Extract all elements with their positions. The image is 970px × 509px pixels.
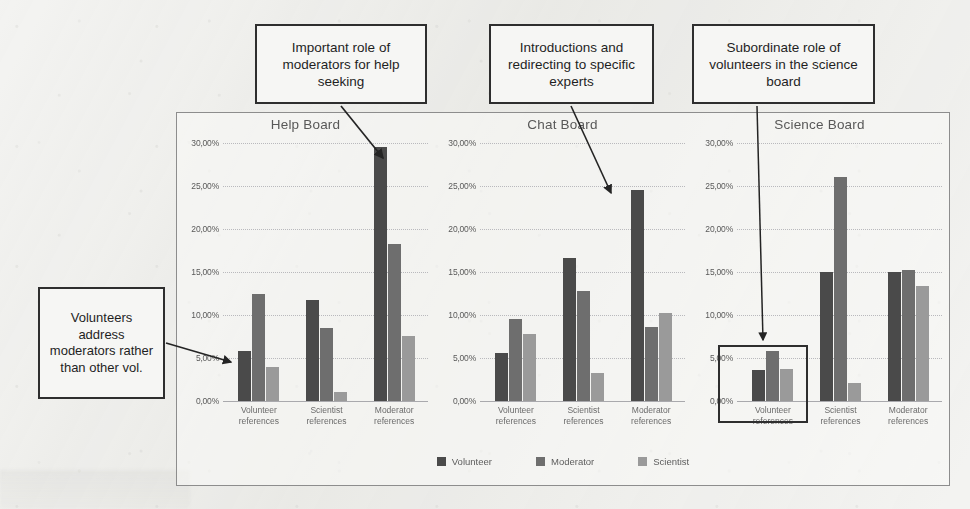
y-axis-tick-label: 25,00% [434,181,476,191]
y-axis-tick-label: 30,00% [434,138,476,148]
chart-legend: VolunteerModeratorScientist [177,451,949,471]
y-axis-tick-label: 0,00% [434,396,476,406]
x-axis-tick-label: Moderatorreferences [874,405,942,427]
bar-scientist [848,383,861,401]
y-axis-tick-label: 20,00% [691,224,733,234]
bar-moderator [509,319,522,401]
bar-moderator [834,177,847,401]
x-axis-tick-label: Moderatorreferences [617,405,685,427]
bar-moderator [320,328,333,401]
y-axis-tick-label: 15,00% [434,267,476,277]
chart-panel-chat-board: Chat Board30,00%25,00%20,00%15,00%10,00%… [434,113,691,443]
bar-groups [225,143,428,401]
panel-title: Science Board [691,117,948,132]
callout-chat-board: Introductions and redirecting to specifi… [489,24,654,104]
bar-scientist [402,336,415,401]
y-axis-tick-label: 15,00% [177,267,219,277]
bar-group [225,143,293,401]
bar-scientist [916,286,929,401]
bar-scientist [591,373,604,401]
x-axis-tick-label: Volunteerreferences [482,405,550,427]
panel-title: Chat Board [434,117,691,132]
y-axis-tick-label: 0,00% [177,396,219,406]
y-axis-tick-label: 30,00% [177,138,219,148]
bar-scientist [523,334,536,401]
bar-moderator [252,294,265,402]
x-axis-tick-label: Scientistreferences [550,405,618,427]
legend-label: Moderator [551,456,594,467]
bar-moderator [577,291,590,401]
plot-area: 30,00%25,00%20,00%15,00%10,00%5,00%0,00% [434,143,691,401]
y-axis-tick-label: 10,00% [434,310,476,320]
chart-container: Help Board30,00%25,00%20,00%15,00%10,00%… [176,112,950,486]
y-axis-tick-label: 20,00% [177,224,219,234]
bar-group [807,143,875,401]
bar-volunteer [820,272,833,401]
bar-scientist [334,392,347,401]
bar-group [293,143,361,401]
bar-group [874,143,942,401]
legend-item-volunteer: Volunteer [437,456,492,467]
bar-scientist [266,367,279,401]
x-axis-line [223,401,428,402]
y-axis-tick-label: 30,00% [691,138,733,148]
x-axis-tick-label: Moderatorreferences [360,405,428,427]
callout-help-board: Important role of moderators for help se… [255,24,427,104]
science-board-volunteer-group-highlight [718,345,808,423]
bar-volunteer [631,190,644,401]
y-axis-tick-label: 25,00% [177,181,219,191]
y-axis-tick-label: 5,00% [434,353,476,363]
bar-moderator [388,244,401,401]
chart-panel-help-board: Help Board30,00%25,00%20,00%15,00%10,00%… [177,113,434,443]
y-axis-tick-label: 10,00% [177,310,219,320]
bar-group [360,143,428,401]
x-axis-labels: VolunteerreferencesScientistreferencesMo… [482,405,685,427]
scan-bleedthrough-artifact [0,470,190,508]
legend-label: Volunteer [452,456,492,467]
x-axis-labels: VolunteerreferencesScientistreferencesMo… [225,405,428,427]
bar-volunteer [563,258,576,401]
callout-volunteers-address-moderators: Volunteers address moderators rather tha… [38,287,165,399]
legend-label: Scientist [653,456,689,467]
bar-volunteer [888,272,901,401]
bar-volunteer [238,351,251,401]
panel-title: Help Board [177,117,434,132]
callout-science-board: Subordinate role of volunteers in the sc… [692,24,875,104]
bar-volunteer [495,353,508,401]
y-axis-tick-label: 15,00% [691,267,733,277]
x-axis-tick-label: Scientistreferences [293,405,361,427]
x-axis-tick-label: Scientistreferences [807,405,875,427]
bar-scientist [659,313,672,401]
bar-group [550,143,618,401]
x-axis-tick-label: Volunteerreferences [225,405,293,427]
bar-group [617,143,685,401]
plot-area: 30,00%25,00%20,00%15,00%10,00%5,00%0,00% [177,143,434,401]
y-axis-tick-label: 25,00% [691,181,733,191]
bar-moderator [645,327,658,401]
x-axis-line [480,401,685,402]
bar-volunteer [374,147,387,401]
legend-swatch-icon [638,457,647,466]
legend-item-moderator: Moderator [536,456,594,467]
legend-swatch-icon [437,457,446,466]
y-axis-tick-label: 10,00% [691,310,733,320]
bar-group [482,143,550,401]
legend-swatch-icon [536,457,545,466]
y-axis-tick-label: 5,00% [177,353,219,363]
y-axis-tick-label: 20,00% [434,224,476,234]
bar-moderator [902,270,915,401]
legend-item-scientist: Scientist [638,456,689,467]
bar-groups [482,143,685,401]
bar-volunteer [306,300,319,401]
